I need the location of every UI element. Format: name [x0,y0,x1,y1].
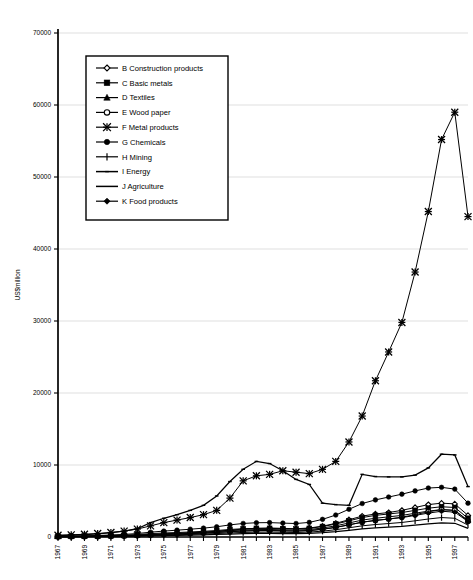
y-tick-label: 10000 [33,461,51,468]
x-tick-label: 1985 [292,545,299,560]
data-point-marker [451,109,458,116]
data-point-marker [425,208,432,215]
data-point-marker [426,486,431,491]
line-chart: 010000200003000040000500006000070000 196… [0,0,473,580]
data-point-marker [465,213,472,220]
data-point-marker [347,507,352,512]
data-point-marker [359,413,366,420]
legend-label: C Basic metals [122,79,173,88]
x-tick-label: 1991 [372,545,379,560]
data-point-marker [333,513,338,518]
data-point-marker [160,519,167,526]
chart-container: 010000200003000040000500006000070000 196… [0,0,473,580]
data-point-marker [412,269,419,276]
x-tick-label: 1995 [425,545,432,560]
legend-label: K Food products [122,197,178,206]
data-point-marker [320,517,325,522]
y-axis-title: US$million [14,269,21,300]
data-point-marker [360,501,365,506]
x-tick-label: 1987 [319,545,326,560]
chart-legend: B Construction productsC Basic metalsD T… [86,56,228,220]
data-point-marker [452,487,457,492]
page-artifact-text [0,0,473,10]
data-point-marker [307,520,312,525]
data-point-marker [228,523,233,528]
legend-label: H Mining [122,153,152,162]
data-point-marker [267,520,272,525]
x-tick-label: 1977 [187,545,194,560]
y-axis-ticks: 010000200003000040000500006000070000 [33,29,58,540]
legend-label: D Textiles [122,93,155,102]
x-tick-label: 1981 [240,545,247,560]
data-point-marker [200,511,207,518]
data-point-marker [213,507,220,514]
x-tick-label: 1983 [266,545,273,560]
x-tick-label: 1969 [81,545,88,560]
y-tick-label: 0 [47,533,51,540]
y-tick-label: 40000 [33,245,51,252]
x-tick-label: 1967 [54,545,61,560]
data-point-marker [400,492,405,497]
data-point-marker [174,517,181,524]
data-point-marker [373,498,378,503]
data-point-marker [281,521,286,526]
series-I [56,454,470,535]
data-point-marker [201,526,206,531]
y-tick-label: 60000 [33,101,51,108]
data-point-marker [439,485,444,490]
data-point-marker [226,495,233,502]
data-point-marker [385,348,392,355]
legend-label: J Agriculture [122,182,164,191]
data-point-marker [306,470,313,477]
legend-label: F Metal products [122,123,179,132]
data-point-marker [293,469,300,476]
x-tick-label: 1971 [107,545,114,560]
data-point-marker [294,521,299,526]
data-point-marker [104,110,109,115]
y-tick-label: 70000 [33,29,51,36]
data-point-marker [398,319,405,326]
legend-label: I Energy [122,167,150,176]
data-point-marker [332,458,339,465]
data-point-marker [372,377,379,384]
data-point-marker [104,80,110,86]
data-point-marker [103,123,111,131]
data-point-marker [253,472,260,479]
data-point-marker [214,524,219,529]
data-point-marker [345,438,352,445]
data-point-marker [240,477,247,484]
legend-label: G Chemicals [122,138,166,147]
data-point-marker [241,521,246,526]
y-tick-label: 20000 [33,389,51,396]
y-tick-label: 30000 [33,317,51,324]
x-tick-label: 1973 [134,545,141,560]
data-point-marker [466,501,471,506]
y-tick-label: 50000 [33,173,51,180]
x-tick-label: 1975 [160,545,167,560]
x-axis-ticks: 1967196919711973197519771979198119831985… [54,537,468,559]
series-line [58,454,468,535]
data-point-marker [386,495,391,500]
x-tick-label: 1997 [451,545,458,560]
x-tick-label: 1993 [398,545,405,560]
data-point-marker [187,514,194,521]
data-point-marker [266,471,273,478]
data-point-marker [413,489,418,494]
data-point-marker [319,466,326,473]
data-point-marker [438,136,445,143]
data-point-marker [104,139,109,144]
data-point-marker [254,520,259,525]
x-tick-label: 1989 [345,545,352,560]
x-tick-label: 1979 [213,545,220,560]
legend-label: B Construction products [122,64,203,73]
legend-label: E Wood paper [122,108,171,117]
